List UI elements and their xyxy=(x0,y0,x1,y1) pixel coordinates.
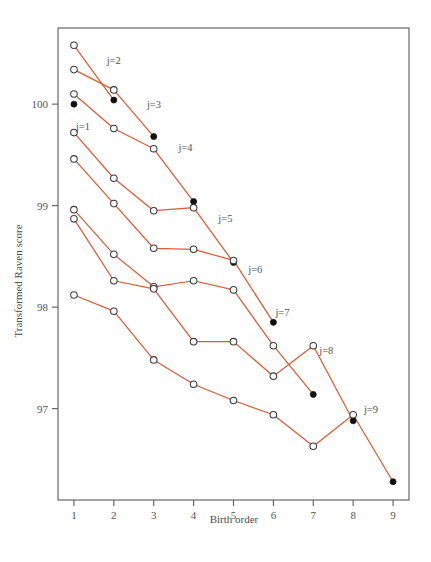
data-point-open xyxy=(150,145,157,152)
data-point-lastborn xyxy=(270,319,276,325)
data-point-open xyxy=(71,156,78,163)
data-point-open xyxy=(71,91,78,98)
data-point-open xyxy=(230,257,237,264)
x-tick-label: 1 xyxy=(71,509,77,521)
data-point-open xyxy=(190,277,197,284)
series-label-j=6: j=6 xyxy=(247,264,262,275)
series-label-j=1: j=1 xyxy=(75,121,90,132)
series-label-j=4: j=4 xyxy=(177,142,193,153)
data-point-lastborn xyxy=(191,199,197,205)
data-point-lastborn xyxy=(390,479,396,485)
x-tick-label: 2 xyxy=(111,509,117,521)
data-point-open xyxy=(150,357,157,364)
data-point-open xyxy=(350,411,357,418)
y-tick-label: 97 xyxy=(37,403,49,415)
data-point-open xyxy=(111,308,118,315)
data-point-open xyxy=(230,397,237,404)
data-point-open xyxy=(111,200,118,207)
data-point-lastborn xyxy=(111,97,117,103)
y-tick-label: 100 xyxy=(32,98,49,110)
data-point-open xyxy=(71,206,78,213)
raven-score-line-chart: 123456789 979899100 j=1j=2j=3j=4j=5j=6j=… xyxy=(0,0,431,562)
data-point-open xyxy=(230,338,237,345)
series-label-j=2: j=2 xyxy=(106,55,121,66)
y-axis-title: Transformed Raven score xyxy=(12,224,24,337)
data-point-lastborn xyxy=(310,391,316,397)
y-tick-label: 99 xyxy=(37,200,49,212)
data-point-open xyxy=(71,292,78,299)
series-label-j=9: j=9 xyxy=(363,404,378,415)
x-axis-title: Birth order xyxy=(210,513,259,525)
data-point-open xyxy=(310,443,317,450)
data-point-open xyxy=(230,287,237,294)
data-point-open xyxy=(190,204,197,211)
data-point-lastborn xyxy=(350,418,356,424)
series-label-j=5: j=5 xyxy=(217,213,232,224)
x-tick-label: 6 xyxy=(271,509,277,521)
x-tick-label: 9 xyxy=(390,509,396,521)
data-point-open xyxy=(270,342,277,349)
data-point-open xyxy=(190,381,197,388)
x-tick-label: 4 xyxy=(191,509,197,521)
x-tick-label: 7 xyxy=(311,509,317,521)
series-label-j=3: j=3 xyxy=(146,99,161,110)
figure-container: 123456789 979899100 j=1j=2j=3j=4j=5j=6j=… xyxy=(0,0,431,562)
data-point-open xyxy=(150,286,157,293)
x-tick-label: 8 xyxy=(350,509,356,521)
data-point-open xyxy=(150,245,157,252)
data-point-open xyxy=(310,342,317,349)
data-point-open xyxy=(111,175,118,182)
data-point-open xyxy=(71,66,78,73)
data-point-lastborn xyxy=(71,101,77,107)
data-point-open xyxy=(111,125,118,132)
data-point-open xyxy=(150,207,157,214)
data-point-open xyxy=(190,338,197,345)
data-point-open xyxy=(111,87,118,94)
y-tick-label: 98 xyxy=(37,301,49,313)
data-point-open xyxy=(270,373,277,380)
data-point-open xyxy=(111,251,118,258)
data-point-open xyxy=(190,246,197,253)
data-point-lastborn xyxy=(151,134,157,140)
series-label-j=7: j=7 xyxy=(274,307,289,318)
chart-background xyxy=(0,0,431,562)
series-label-j=8: j=8 xyxy=(318,345,333,356)
data-point-open xyxy=(111,277,118,284)
data-point-open xyxy=(71,42,78,49)
data-point-open xyxy=(71,216,78,223)
data-point-open xyxy=(270,411,277,418)
x-tick-label: 3 xyxy=(151,509,157,521)
